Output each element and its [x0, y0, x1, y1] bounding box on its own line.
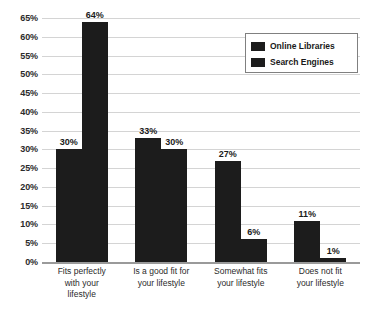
bar-value-label: 27% [208, 149, 248, 159]
x-axis-line [42, 262, 360, 264]
x-axis-category-label-line: Is a good fit for [118, 266, 206, 278]
legend-swatch-icon [251, 58, 265, 67]
bar [56, 149, 82, 262]
x-axis-category-label-line: Somewhat fits [197, 266, 285, 278]
x-axis-category-label-line: your lifestyle [277, 278, 365, 290]
y-axis: 0%5%10%15%20%25%30%35%40%45%50%55%60%65% [0, 0, 38, 320]
x-axis-category-label-line: with your [38, 278, 126, 290]
bar-value-label: 64% [75, 10, 115, 20]
y-axis-tick-label: 15% [0, 201, 38, 211]
bar [82, 22, 108, 262]
x-axis-category-label-line: your lifestyle [197, 278, 285, 290]
x-axis-category-label-line: lifestyle [38, 289, 126, 301]
y-axis-tick-label: 35% [0, 126, 38, 136]
bar-value-label: 6% [234, 227, 274, 237]
x-axis-category-label: Does not fityour lifestyle [277, 266, 365, 289]
y-axis-tick-label: 50% [0, 69, 38, 79]
bar [135, 138, 161, 262]
y-axis-tick-label: 60% [0, 32, 38, 42]
bar [215, 161, 241, 262]
x-axis-category-label-line: your lifestyle [118, 278, 206, 290]
y-axis-tick-label: 65% [0, 13, 38, 23]
bar [161, 149, 187, 262]
y-axis-tick-label: 20% [0, 182, 38, 192]
legend-item-label: Online Libraries [270, 41, 335, 51]
legend-item-label: Search Engines [270, 57, 334, 67]
legend-swatch-icon [251, 42, 265, 51]
legend-item[interactable]: Online Libraries [251, 38, 352, 54]
bar [241, 239, 267, 262]
x-axis-category-label: Somewhat fitsyour lifestyle [197, 266, 285, 289]
bar-value-label: 33% [128, 126, 168, 136]
bar-value-label: 1% [313, 246, 353, 256]
x-axis-category-label-line: Fits perfectly [38, 266, 126, 278]
bar-value-label: 30% [154, 137, 194, 147]
y-axis-tick-label: 10% [0, 219, 38, 229]
legend: Online LibrariesSearch Engines [245, 33, 358, 73]
y-axis-tick-label: 30% [0, 144, 38, 154]
bar-chart: 0%5%10%15%20%25%30%35%40%45%50%55%60%65%… [0, 0, 370, 320]
y-axis-tick-label: 45% [0, 88, 38, 98]
x-axis-category-label: Is a good fit foryour lifestyle [118, 266, 206, 289]
y-axis-tick-label: 0% [0, 257, 38, 267]
x-axis-category-label: Fits perfectlywith yourlifestyle [38, 266, 126, 301]
y-axis-tick-label: 55% [0, 51, 38, 61]
y-axis-tick-label: 5% [0, 238, 38, 248]
x-axis: Fits perfectlywith yourlifestyleIs a goo… [42, 266, 360, 312]
legend-item[interactable]: Search Engines [251, 54, 352, 70]
y-axis-tick-label: 25% [0, 163, 38, 173]
bar-value-label: 11% [287, 209, 327, 219]
x-axis-category-label-line: Does not fit [277, 266, 365, 278]
y-axis-tick-label: 40% [0, 107, 38, 117]
